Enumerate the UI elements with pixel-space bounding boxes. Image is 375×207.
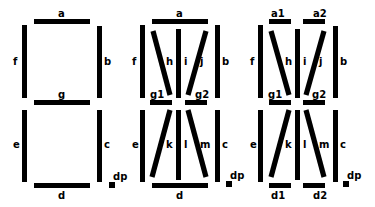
seg16-d1 <box>269 183 291 188</box>
seg16-a1 <box>269 19 291 24</box>
label7-e: e <box>13 139 20 150</box>
label16-c: c <box>340 139 346 150</box>
label16-f: f <box>250 56 255 67</box>
seg14-g2 <box>185 100 207 105</box>
seg16-i <box>295 29 300 98</box>
seg14-g1 <box>150 100 172 105</box>
label7-g: g <box>58 89 65 100</box>
segment-display-diagram: a f b g e c d dp a f h i j b g1 g2 e k l <box>0 0 375 207</box>
label16-g1: g1 <box>268 89 282 100</box>
seg14-d <box>152 183 208 188</box>
seg16-d2 <box>303 183 325 188</box>
seg16-c <box>333 110 338 182</box>
label14-d: d <box>176 190 183 201</box>
label7-f: f <box>13 56 18 67</box>
label16-d2: d2 <box>313 190 327 201</box>
seg7-dp <box>109 182 115 188</box>
seg7-a <box>34 19 90 24</box>
label14-f: f <box>132 56 137 67</box>
seg16-a2 <box>303 19 325 24</box>
seg14-dp <box>226 181 232 187</box>
label14-l: l <box>184 139 187 150</box>
label16-g2: g2 <box>312 89 326 100</box>
seg16-dp <box>343 181 349 187</box>
label16-m: m <box>319 139 329 150</box>
seg7-e <box>22 110 27 182</box>
label14-i: i <box>184 56 187 67</box>
label14-g1: g1 <box>150 89 164 100</box>
seg7-f <box>22 25 27 98</box>
label16-a1: a1 <box>271 8 285 19</box>
label16-dp: dp <box>347 170 361 181</box>
label14-c: c <box>222 139 228 150</box>
fourteen-segment-display: a f h i j b g1 g2 e k l m c d dp <box>132 8 244 201</box>
seg16-b <box>333 26 338 98</box>
label16-k: k <box>285 139 292 150</box>
seg14-c <box>215 110 220 182</box>
seg7-b <box>97 26 102 98</box>
label7-c: c <box>104 139 110 150</box>
label16-i: i <box>303 56 306 67</box>
seg14-e <box>140 110 145 182</box>
label14-m: m <box>200 139 210 150</box>
label16-j: j <box>318 56 322 67</box>
seg14-a <box>152 19 208 24</box>
label14-h: h <box>166 56 173 67</box>
label14-g2: g2 <box>195 89 209 100</box>
label14-a: a <box>176 8 183 19</box>
label7-a: a <box>58 8 65 19</box>
seg16-l <box>295 110 300 180</box>
seven-segment-display: a f b g e c d dp <box>13 8 127 201</box>
sixteen-segment-display: a1 a2 f h i j b g1 g2 e k l m c d1 d2 dp <box>250 8 361 201</box>
seg16-f <box>258 25 263 98</box>
label16-a2: a2 <box>313 8 327 19</box>
seg7-d <box>34 183 90 188</box>
seg14-f <box>140 25 145 98</box>
seg7-g <box>34 100 90 105</box>
label16-d1: d1 <box>271 190 285 201</box>
label7-dp: dp <box>113 171 127 182</box>
label16-b: b <box>340 56 347 67</box>
label16-e: e <box>250 139 257 150</box>
seg14-b <box>215 25 220 98</box>
seg16-e <box>258 110 263 182</box>
label14-b: b <box>222 56 229 67</box>
seg14-l <box>176 110 181 180</box>
label7-d: d <box>58 190 65 201</box>
label14-dp: dp <box>230 170 244 181</box>
label16-l: l <box>303 139 306 150</box>
seg14-i <box>176 29 181 98</box>
seg16-g2 <box>303 100 325 105</box>
label14-k: k <box>166 139 173 150</box>
seg16-g1 <box>269 100 291 105</box>
label14-e: e <box>132 139 139 150</box>
seg7-c <box>97 110 102 182</box>
label7-b: b <box>104 56 111 67</box>
label14-j: j <box>199 56 203 67</box>
label16-h: h <box>285 56 292 67</box>
